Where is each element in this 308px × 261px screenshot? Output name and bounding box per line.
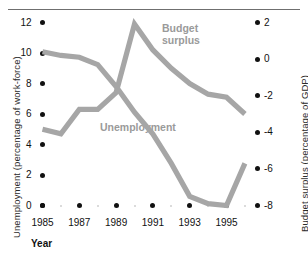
line-unemployment <box>43 24 245 134</box>
chart-figure: Unemployment (percentage of work-force) … <box>0 0 308 261</box>
line-budget-surplus <box>43 52 245 206</box>
plot-area <box>0 0 308 261</box>
